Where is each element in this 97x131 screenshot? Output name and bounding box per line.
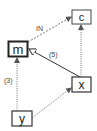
edge-y-to-m: (3): [4, 58, 17, 111]
edge-m-to-c: IN: [28, 17, 71, 42]
edge-label-5: (5): [49, 51, 58, 59]
edge-y-to-x: [32, 88, 71, 118]
edge-label-3: (3): [4, 77, 13, 85]
edge-label-in: IN: [36, 25, 43, 32]
node-x-label: x: [79, 78, 85, 92]
edge-x-to-m: (5): [29, 49, 80, 77]
node-y-label: y: [19, 112, 25, 126]
node-m[interactable]: m: [9, 42, 28, 58]
node-x[interactable]: x: [72, 77, 91, 92]
diagram-canvas: IN (5) (3) c m x y: [0, 0, 97, 131]
node-c-label: c: [79, 11, 85, 23]
node-m-label: m: [13, 42, 24, 57]
node-c[interactable]: c: [72, 10, 91, 24]
node-y[interactable]: y: [12, 111, 32, 126]
